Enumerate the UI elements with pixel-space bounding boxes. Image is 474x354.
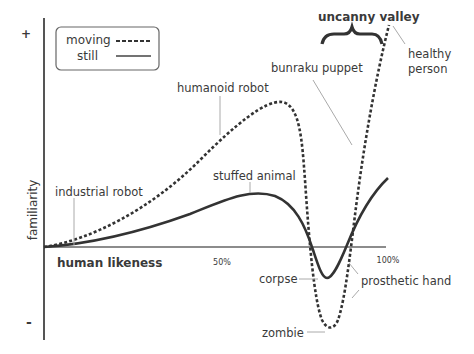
annotation-healthy: healthy	[408, 47, 451, 61]
annotation-person: person	[408, 62, 447, 76]
x-tick-100: 100%	[377, 256, 400, 265]
legend-label-still: still	[77, 49, 98, 63]
annotation-corpse: corpse	[259, 272, 297, 286]
chart-title: uncanny valley	[318, 10, 420, 24]
annotation-stuffed-animal: stuffed animal	[213, 169, 296, 183]
x-axis-label: human likeness	[57, 256, 162, 270]
x-tick-50: 50%	[213, 258, 231, 267]
y-tick-minus: -	[26, 314, 32, 330]
y-axis-label: familiarity	[26, 180, 40, 241]
annotation-prosthetic-hand: prosthetic hand	[361, 274, 451, 288]
uncanny-valley-brace	[322, 27, 382, 44]
annotation-industrial-robot: industrial robot	[55, 185, 143, 199]
legend-label-moving: moving	[66, 33, 111, 47]
annotation-humanoid-robot: humanoid robot	[177, 81, 269, 95]
annotation-bunraku-puppet: bunraku puppet	[271, 61, 363, 75]
uncanny-valley-chart: + - familiarity human likeness 50% 100% …	[0, 0, 474, 354]
annotation-zombie: zombie	[262, 326, 304, 340]
y-tick-plus: +	[21, 27, 31, 41]
legend: moving still	[56, 27, 159, 70]
